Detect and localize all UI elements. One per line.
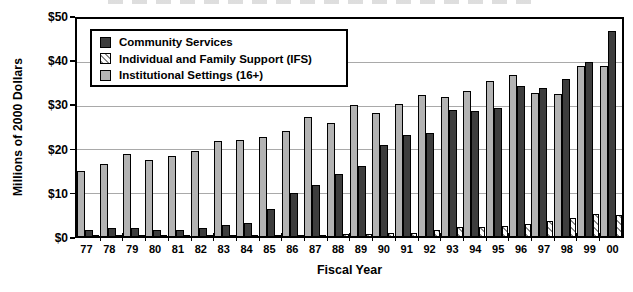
bar-ifs	[616, 215, 622, 236]
bar-institutional	[77, 171, 85, 236]
bar-ifs	[434, 230, 440, 237]
x-tick-label: 97	[533, 243, 556, 255]
bar-institutional	[191, 151, 199, 236]
x-tick-label: 92	[418, 243, 441, 255]
year-group-90	[372, 19, 395, 236]
bar-institutional	[168, 156, 176, 236]
year-group-96	[508, 19, 531, 236]
bar-ifs	[411, 233, 417, 236]
bar-institutional	[282, 131, 290, 236]
x-tick-label: 94	[464, 243, 487, 255]
ifs-swatch-icon	[100, 53, 111, 64]
x-tick-label: 88	[327, 243, 350, 255]
bar-community	[471, 111, 479, 236]
bar-community	[131, 228, 139, 236]
x-tick-label: 86	[281, 243, 304, 255]
bar-ifs	[93, 235, 99, 236]
x-tick-label: 00	[601, 243, 624, 255]
bar-institutional	[145, 160, 153, 236]
bar-institutional	[509, 75, 517, 236]
year-group-92	[418, 19, 441, 236]
bar-institutional	[395, 104, 403, 236]
x-tick-label: 80	[144, 243, 167, 255]
bar-community	[199, 228, 207, 236]
bar-community	[335, 174, 343, 236]
bar-institutional	[418, 95, 426, 236]
bar-institutional	[214, 141, 222, 236]
bar-ifs	[457, 227, 463, 236]
x-tick-label: 87	[304, 243, 327, 255]
community-services-swatch-icon	[100, 37, 111, 48]
bar-ifs	[502, 226, 508, 236]
institutional-settings-swatch-icon	[100, 70, 111, 81]
bar-institutional	[304, 117, 312, 236]
year-group-94	[463, 19, 486, 236]
year-group-99	[576, 19, 599, 236]
y-tick-label: $20	[16, 143, 68, 157]
bar-ifs	[207, 235, 213, 236]
x-axis-title: Fiscal Year	[75, 263, 624, 277]
legend-label: Institutional Settings (16+)	[119, 69, 263, 81]
x-axis-tick-labels: 7778798081828384858687888990919293949596…	[75, 243, 624, 255]
x-tick-label: 77	[75, 243, 98, 255]
x-tick-label: 82	[189, 243, 212, 255]
y-tick-label: $10	[16, 187, 68, 201]
bar-community	[517, 86, 525, 236]
bar-ifs	[366, 234, 372, 236]
year-group-91	[395, 19, 418, 236]
bar-community	[108, 228, 116, 236]
bar-community	[290, 193, 298, 236]
year-group-89	[349, 19, 372, 236]
bar-ifs	[230, 235, 236, 236]
bar-institutional	[259, 137, 267, 236]
bar-institutional	[372, 113, 380, 236]
bar-institutional	[100, 164, 108, 236]
x-tick-label: 79	[121, 243, 144, 255]
cropped-title-remnant	[108, 0, 538, 4]
y-tick-label: $0	[16, 231, 68, 245]
bar-ifs	[275, 235, 281, 236]
bar-ifs	[252, 235, 258, 236]
bar-ifs	[161, 235, 167, 236]
year-group-00	[599, 19, 622, 236]
bar-community	[153, 230, 161, 237]
x-tick-label: 81	[167, 243, 190, 255]
bar-community	[380, 145, 388, 236]
bar-community	[222, 225, 230, 236]
bar-ifs	[547, 221, 553, 236]
bar-ifs	[320, 235, 326, 236]
bar-ifs	[525, 224, 531, 236]
legend-label: Community Services	[119, 36, 233, 48]
bar-community	[85, 230, 93, 237]
bar-ifs	[298, 235, 304, 236]
year-group-93	[440, 19, 463, 236]
x-tick-label: 90	[372, 243, 395, 255]
bar-community	[494, 108, 502, 236]
bar-institutional	[463, 91, 471, 236]
bar-ifs	[593, 214, 599, 236]
legend: Community Services Individual and Family…	[90, 29, 348, 87]
y-tick-label: $50	[16, 10, 68, 24]
legend-item-ifs: Individual and Family Support (IFS)	[100, 53, 340, 65]
bar-chart-figure: Millions of 2000 Dollars $50$40$30$20$10…	[0, 0, 633, 292]
bar-community	[244, 223, 252, 236]
bar-institutional	[123, 154, 131, 236]
bar-institutional	[554, 94, 562, 236]
bar-community	[426, 133, 434, 236]
bar-institutional	[600, 66, 608, 236]
legend-item-institutional-settings: Institutional Settings (16+)	[100, 69, 340, 81]
x-tick-label: 84	[235, 243, 258, 255]
bar-community	[403, 135, 411, 236]
bar-institutional	[441, 97, 449, 236]
x-tick-label: 96	[510, 243, 533, 255]
bar-community	[562, 79, 570, 236]
x-tick-label: 95	[487, 243, 510, 255]
bar-ifs	[184, 235, 190, 236]
legend-item-community-services: Community Services	[100, 36, 340, 48]
bar-institutional	[486, 81, 494, 236]
bar-ifs	[570, 218, 576, 236]
bar-community	[312, 185, 320, 236]
x-tick-label: 99	[578, 243, 601, 255]
bar-institutional	[350, 105, 358, 236]
bar-institutional	[327, 123, 335, 236]
